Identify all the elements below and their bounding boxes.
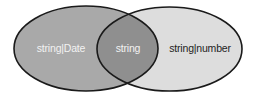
set-right-label: string|number: [169, 42, 230, 54]
intersection-label: string: [116, 42, 140, 54]
set-left-label: string|Date: [37, 42, 85, 54]
venn-diagram: string|Date string string|number: [0, 0, 253, 97]
